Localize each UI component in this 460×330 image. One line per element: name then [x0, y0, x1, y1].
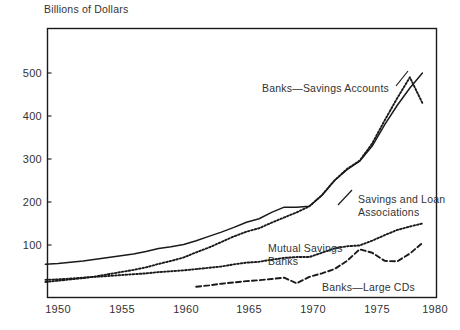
x-tick-label-1950: 1950	[45, 303, 71, 315]
x-tick-label-1955: 1955	[109, 303, 135, 315]
x-tick-label-1975: 1975	[364, 303, 390, 315]
series-label-savings-and-loan-line2: Associations	[358, 206, 419, 218]
x-tick-label-1965: 1965	[236, 303, 262, 315]
y-tick-label-100: 100	[23, 239, 42, 251]
x-tick-label-1960: 1960	[173, 303, 199, 315]
series-label-mutual-savings-line2: Banks	[268, 255, 298, 267]
chart-root: Billions of Dollars 500 400 300 200 100 …	[0, 0, 460, 330]
series-label-banks-savings-accounts: Banks—Savings Accounts	[262, 82, 389, 94]
y-tick-label-200: 200	[23, 196, 42, 208]
series-label-banks-large-cds: Banks—Large CDs	[322, 281, 415, 293]
chart-plot-area: 500 400 300 200 100 1950 1955 1960 1965 …	[0, 0, 460, 330]
y-tick-label-300: 300	[23, 153, 42, 165]
x-tick-label-1980: 1980	[422, 303, 448, 315]
y-tick-label-500: 500	[23, 67, 42, 79]
y-tick-label-400: 400	[23, 110, 42, 122]
series-label-savings-and-loan-line1: Savings and Loan	[358, 193, 445, 205]
x-tick-label-1970: 1970	[300, 303, 326, 315]
series-label-mutual-savings-line1: Mutual Savings	[268, 242, 343, 254]
